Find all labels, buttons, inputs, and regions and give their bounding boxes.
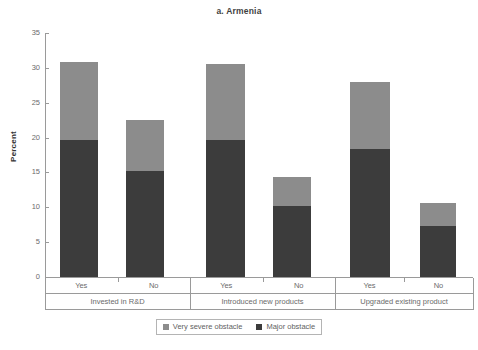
x-panel-bottom-border [45, 309, 473, 310]
bar-stack [60, 62, 98, 277]
y-axis-tick-label: 25 [12, 98, 40, 107]
y-axis-tick-label: 5 [12, 237, 40, 246]
x-axis-category-label: Yes [190, 281, 263, 290]
x-axis-label-panel: YesNoInvested in R&DYesNoIntroduced new … [45, 278, 473, 310]
bar-segment-major-obstacle [273, 206, 311, 277]
legend-label: Very severe obstacle [173, 322, 243, 331]
bar-segment-very-severe-obstacle [126, 120, 164, 171]
x-axis-group-label: Invested in R&D [45, 297, 190, 306]
legend-box: Very severe obstacleMajor obstacle [156, 319, 322, 335]
bar-segment-major-obstacle [126, 171, 164, 277]
bar-segment-very-severe-obstacle [206, 64, 245, 140]
bar-stack [206, 64, 245, 277]
y-axis-tick-label: 0 [12, 272, 40, 281]
bar-stack [420, 203, 456, 277]
bar-segment-very-severe-obstacle [420, 203, 456, 226]
x-axis-group-label: Upgraded existing product [335, 297, 473, 306]
chart-figure: a. Armenia Percent 05101520253035 YesNoI… [0, 0, 478, 350]
legend-item: Very severe obstacle [163, 322, 243, 331]
y-axis-tick-label: 35 [12, 28, 40, 37]
bar-stack [126, 120, 164, 277]
x-axis-category-label: No [118, 281, 191, 290]
plot-area [45, 33, 473, 277]
y-axis-tick-label: 30 [12, 63, 40, 72]
bar-segment-very-severe-obstacle [273, 177, 311, 206]
bar-stack [273, 177, 311, 277]
legend: Very severe obstacleMajor obstacle [0, 319, 478, 335]
x-panel-divider [45, 293, 473, 294]
y-axis-tick-label: 15 [12, 167, 40, 176]
bar-segment-major-obstacle [350, 149, 390, 277]
x-axis-category-label: No [263, 281, 336, 290]
y-axis-tick-label: 20 [12, 133, 40, 142]
bar-stack [350, 82, 390, 277]
bar-segment-major-obstacle [206, 140, 245, 277]
bar-segment-major-obstacle [60, 140, 98, 277]
legend-item: Major obstacle [256, 322, 315, 331]
x-group-separator [473, 278, 474, 310]
legend-label: Major obstacle [266, 322, 315, 331]
bar-segment-very-severe-obstacle [60, 62, 98, 140]
legend-swatch-icon [256, 324, 262, 330]
legend-swatch-icon [163, 324, 169, 330]
y-axis-tick-label: 10 [12, 202, 40, 211]
x-axis-group-label: Introduced new products [190, 297, 335, 306]
x-axis-category-label: No [404, 281, 473, 290]
x-axis-category-label: Yes [45, 281, 118, 290]
bar-segment-major-obstacle [420, 226, 456, 277]
chart-title: a. Armenia [0, 6, 478, 16]
bar-segment-very-severe-obstacle [350, 82, 390, 149]
x-axis-category-label: Yes [335, 281, 404, 290]
